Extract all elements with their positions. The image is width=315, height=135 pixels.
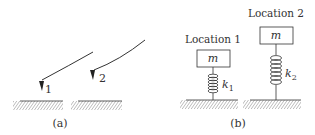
panel-b: Location 1 m k1 — [180, 7, 304, 130]
deflection-curve-1 — [42, 52, 93, 80]
mass-label-1: m — [208, 52, 218, 65]
spring-2 — [271, 44, 282, 100]
spring-label-1: k1 — [222, 78, 234, 93]
caption-a: (a) — [52, 117, 67, 130]
ground-2 — [71, 101, 122, 110]
deflection-curve-2 — [94, 40, 145, 70]
location-label-1: Location 1 — [185, 33, 241, 45]
panel-a: 1 2 (a) — [13, 40, 145, 130]
spring-label-2: k2 — [285, 67, 297, 82]
pointer-label-2: 2 — [99, 72, 106, 85]
spring-1 — [208, 67, 218, 100]
mass-spring-system-2: Location 2 m k2 — [243, 7, 304, 109]
mass-label-2: m — [271, 29, 281, 42]
pointer-arrow-2 — [90, 70, 95, 80]
ground-4 — [243, 100, 301, 109]
ground-3 — [180, 100, 238, 109]
spring-subscript-1: 1 — [229, 84, 234, 93]
pointer-label-1: 1 — [45, 83, 52, 96]
location-label-2: Location 2 — [248, 7, 304, 19]
ground-1 — [13, 101, 63, 110]
caption-b: (b) — [230, 117, 246, 130]
spring-subscript-2: 2 — [292, 73, 297, 82]
pointer-arrow-1 — [39, 81, 44, 91]
diagram-canvas: 1 2 (a) Location 1 m — [0, 0, 315, 135]
mass-spring-system-1: Location 1 m k1 — [180, 33, 241, 109]
